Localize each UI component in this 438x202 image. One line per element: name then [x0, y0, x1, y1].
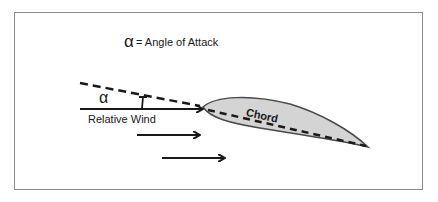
legend-text: = Angle of Attack	[136, 36, 219, 48]
legend-alpha-symbol: α	[124, 32, 134, 51]
relative-wind-label: Relative Wind	[88, 113, 156, 125]
angle-of-attack-diagram: α = Angle of Attack Chord α Relative Win…	[0, 0, 438, 202]
extended-chord-line	[80, 83, 200, 106]
angle-arc-marker	[139, 97, 147, 108]
alpha-label: α	[99, 89, 108, 106]
